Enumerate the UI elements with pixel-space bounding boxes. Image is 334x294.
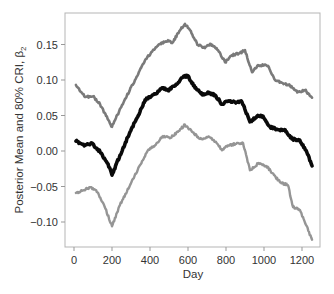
y-axis-title-main: Posterior Mean and 80% CRI,: [13, 58, 25, 214]
line-chart: 020040060080010001200 −0.10−0.050.000.05…: [0, 0, 334, 294]
y-axis-title-subscript: 2: [19, 46, 28, 51]
x-tick-label: 0: [71, 254, 77, 266]
y-tick-label: −0.10: [30, 216, 58, 228]
y-tick-label: 0.00: [37, 145, 58, 157]
x-tick-label: 1200: [290, 254, 314, 266]
x-axis-title: Day: [183, 268, 204, 280]
x-tick-label: 1000: [252, 254, 276, 266]
y-tick-label: −0.05: [30, 181, 58, 193]
y-tick-label: 0.05: [37, 110, 58, 122]
y-tick-label: 0.15: [37, 39, 58, 51]
x-tick-label: 200: [103, 254, 121, 266]
x-tick-label: 400: [141, 254, 159, 266]
x-tick-label: 600: [179, 254, 197, 266]
y-tick-label: 0.10: [37, 74, 58, 86]
x-tick-label: 800: [217, 254, 235, 266]
